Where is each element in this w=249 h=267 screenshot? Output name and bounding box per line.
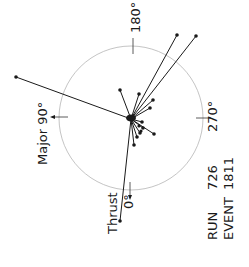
label-thrust: Thrust <box>105 192 120 235</box>
track-long-upper-right-1 <box>131 35 177 119</box>
label-major: Major 90° <box>35 102 50 165</box>
label-270: 270° <box>205 101 220 132</box>
event-label: EVENT <box>221 197 236 240</box>
track-long-upper-right-2 <box>131 36 196 119</box>
event-value: 1811 <box>221 157 236 190</box>
vertex <box>126 115 136 122</box>
label-180: 180° <box>128 2 143 33</box>
run-label: RUN <box>205 212 220 240</box>
track-long-left <box>16 77 131 119</box>
event-display: 180° 270° Major 90° Thrust 0° RUN 726 EV… <box>0 0 249 267</box>
run-value: 726 <box>205 165 220 190</box>
label-0: 0° <box>121 194 136 209</box>
